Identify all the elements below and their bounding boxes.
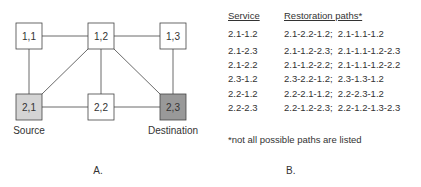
node-2-3-destination: 2,3 — [160, 94, 186, 120]
node-1-2: 1,2 — [88, 23, 114, 49]
svg-text:2,1: 2,1 — [22, 102, 36, 113]
network-diagram: 1,1 1,2 1,3 2,1 2,2 2,3 Source Destinati… — [0, 0, 220, 187]
service-cell: 2.2-1.2 — [228, 88, 258, 99]
footnote: *not all possible paths are listed — [228, 134, 362, 145]
panel-a-label: A. — [93, 165, 102, 176]
header-restoration-paths: Restoration paths* — [284, 10, 362, 21]
source-label: Source — [13, 125, 45, 136]
service-cell: 2.3-1.2 — [228, 73, 258, 84]
header-service: Service — [228, 10, 260, 21]
service-cell: 2.1-1.2 — [228, 28, 258, 39]
paths-cell: 2.3-2.2-1.2; 2.3-1.3-1.2 — [284, 73, 384, 84]
service-cell: 2.1-2.3 — [228, 45, 258, 56]
paths-cell: 2.1-1.2-2.3; 2.1-1.1-1.2-2.3 — [284, 45, 400, 56]
destination-label: Destination — [148, 125, 198, 136]
node-1-1: 1,1 — [16, 23, 42, 49]
service-cell: 2.2-2.3 — [228, 102, 258, 113]
svg-text:1,1: 1,1 — [22, 31, 36, 42]
svg-text:1,2: 1,2 — [94, 31, 108, 42]
svg-text:1,3: 1,3 — [166, 31, 180, 42]
node-2-1-source: 2,1 — [16, 94, 42, 120]
panel-b-label: B. — [286, 165, 295, 176]
paths-cell: 2.2-1.2-2.3; 2.2-1.2-1.3-2.3 — [284, 102, 400, 113]
svg-text:2,3: 2,3 — [166, 102, 180, 113]
paths-cell: 2.2-2.1-1.2; 2.2-2.3-1.2 — [284, 88, 384, 99]
node-2-2: 2,2 — [88, 94, 114, 120]
paths-cell: 2.1-2.2-1.2; 2.1-1.1-1.2 — [284, 28, 384, 39]
svg-text:2,2: 2,2 — [94, 102, 108, 113]
paths-cell: 2.1-1.2-2.2; 2.1-1.1-1.2-2.2 — [284, 59, 400, 70]
node-1-3: 1,3 — [160, 23, 186, 49]
service-cell: 2.1-2.2 — [228, 59, 258, 70]
